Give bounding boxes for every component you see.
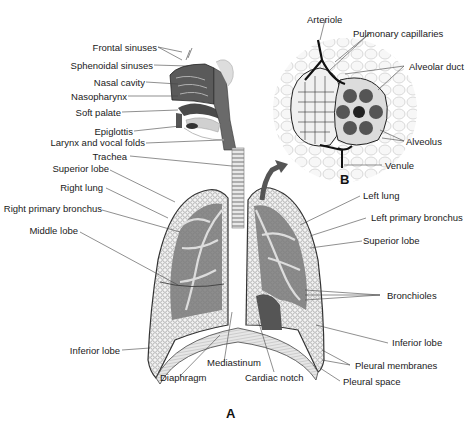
label-larynx-and-vocal-folds: Larynx and vocal folds bbox=[50, 137, 145, 148]
label-frontal-sinuses: Frontal sinuses bbox=[93, 42, 157, 53]
label-nasal-cavity: Nasal cavity bbox=[94, 77, 145, 88]
label-inferior-lobe-left: Inferior lobe bbox=[392, 337, 442, 348]
label-diaphragm: Diaphragm bbox=[160, 372, 206, 383]
label-inferior-lobe-right: Inferior lobe bbox=[70, 345, 120, 356]
label-pleural-space: Pleural space bbox=[343, 376, 401, 387]
panel-label-b: B bbox=[340, 172, 349, 187]
label-bronchioles: Bronchioles bbox=[387, 290, 437, 301]
label-left-lung: Left lung bbox=[363, 190, 399, 201]
trachea-illustration bbox=[232, 148, 244, 228]
label-arteriole: Arteriole bbox=[307, 14, 342, 25]
label-pleural-membranes: Pleural membranes bbox=[355, 360, 437, 371]
label-alveolus: Alveolus bbox=[406, 136, 442, 147]
label-mediastinum: Mediastinum bbox=[207, 357, 261, 368]
label-trachea: Trachea bbox=[93, 151, 128, 162]
label-pulmonary-capillaries: Pulmonary capillaries bbox=[353, 28, 443, 39]
label-left-primary-bronchus: Left primary bronchus bbox=[371, 212, 463, 223]
label-sphenoidal-sinuses: Sphenoidal sinuses bbox=[71, 60, 153, 71]
label-epiglottis: Epiglottis bbox=[94, 126, 133, 137]
label-superior-lobe-right: Superior lobe bbox=[52, 163, 109, 174]
upper-airway-illustration bbox=[170, 48, 236, 150]
label-alveolar-duct: Alveolar duct bbox=[409, 61, 464, 72]
panel-label-a: A bbox=[226, 406, 235, 421]
label-nasopharynx: Nasopharynx bbox=[71, 91, 127, 102]
label-soft-palate: Soft palate bbox=[76, 107, 121, 118]
label-superior-lobe-left: Superior lobe bbox=[363, 235, 420, 246]
label-cardiac-notch: Cardiac notch bbox=[245, 372, 304, 383]
label-middle-lobe: Middle lobe bbox=[29, 225, 78, 236]
label-right-primary-bronchus: Right primary bronchus bbox=[4, 203, 102, 214]
label-right-lung: Right lung bbox=[60, 182, 103, 193]
label-venule: Venule bbox=[385, 160, 414, 171]
